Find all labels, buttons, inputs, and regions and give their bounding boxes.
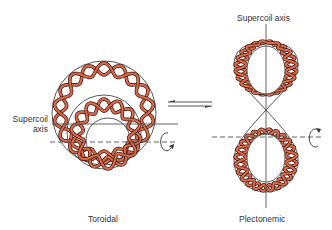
toroidal-structure — [52, 61, 156, 169]
toroid-dna-strands — [55, 63, 154, 169]
supercoil-axis-label-left-line1: Supercoil — [2, 114, 48, 124]
rotation-arrow-icon — [309, 128, 321, 147]
toroidal-label: Toroidal — [88, 214, 118, 224]
supercoil-axis-label-left: Supercoil axis — [2, 114, 48, 134]
supercoil-axis-label-left-line2: axis — [2, 124, 48, 134]
equilibrium-arrows-icon — [168, 100, 212, 108]
plectonemic-label: Plectonemic — [239, 214, 285, 224]
supercoil-axis-label-right: Supercoil axis — [237, 13, 290, 23]
supercoil-diagram — [0, 0, 332, 230]
